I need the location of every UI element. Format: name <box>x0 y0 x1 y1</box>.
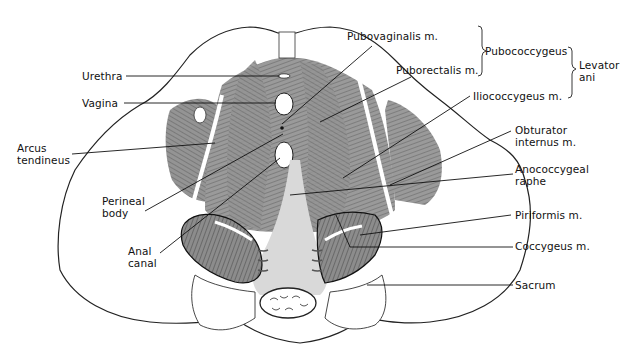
label-pubococcygeus: Pubococcygeus <box>485 45 567 57</box>
label-coccygeus: Coccygeus m. <box>515 240 590 252</box>
label-piriformis: Piriformis m. <box>515 209 582 221</box>
label-pubovaginalis: Pubovaginalis m. <box>347 30 438 42</box>
label-obturator-internus: Obturator internus m. <box>515 124 576 148</box>
label-levator-line1: Levator <box>579 59 619 71</box>
label-anococcygeal-line1: Anococcygeal <box>515 163 589 175</box>
label-levator-ani: Levator ani <box>579 59 619 83</box>
label-arcus-line2: tendineus <box>17 154 70 166</box>
label-anococcygeal-line2: raphe <box>515 175 589 187</box>
label-iliococcygeus: Iliococcygeus m. <box>473 90 562 102</box>
label-obturator-line1: Obturator <box>515 124 576 136</box>
label-arcus-tendineus: Arcus tendineus <box>17 142 70 166</box>
label-perineal-line2: body <box>102 207 145 219</box>
levator-ani-brace <box>568 47 576 98</box>
label-urethra: Urethra <box>82 70 122 82</box>
label-arcus-line1: Arcus <box>17 142 70 154</box>
label-anal-line1: Anal <box>128 245 157 257</box>
vagina-opening <box>275 93 293 115</box>
label-puborectalis: Puborectalis m. <box>396 64 478 76</box>
pubic-symphysis <box>279 32 295 58</box>
label-anal-canal: Anal canal <box>128 245 157 269</box>
label-levator-line2: ani <box>579 71 619 83</box>
vertebral-body <box>260 288 316 318</box>
label-obturator-line2: internus m. <box>515 136 576 148</box>
label-anococcygeal-raphe: Anococcygeal raphe <box>515 163 589 187</box>
label-perineal-body: Perineal body <box>102 195 145 219</box>
label-vagina: Vagina <box>82 97 118 109</box>
label-perineal-line1: Perineal <box>102 195 145 207</box>
label-anal-line2: canal <box>128 257 157 269</box>
pelvic-floor-diagram: Urethra Vagina Arcus tendineus Perineal … <box>0 0 634 353</box>
label-sacrum: Sacrum <box>515 279 556 291</box>
